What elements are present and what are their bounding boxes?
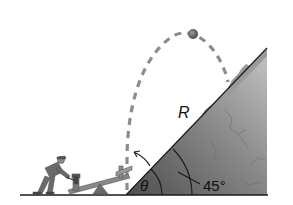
incline-angle-label: 45° [203,177,226,194]
range-label: R [178,104,190,121]
projectile-incline-diagram: R θ 45° [0,0,293,205]
ball [188,29,198,39]
launch-angle-label: θ [140,177,148,194]
